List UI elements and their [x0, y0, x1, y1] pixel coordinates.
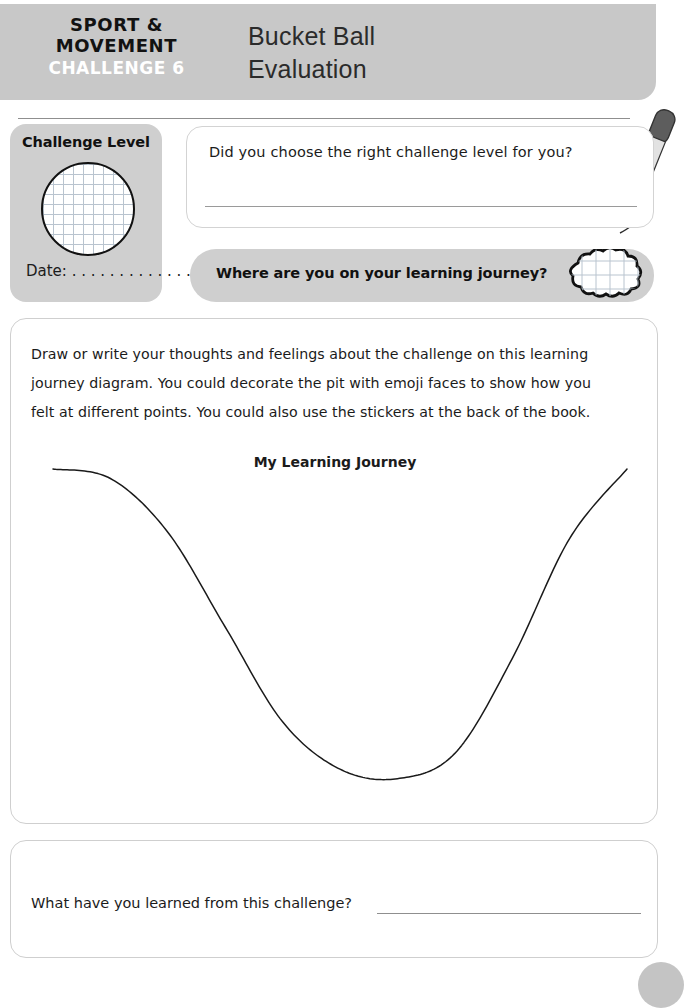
page-title: Bucket Ball Evaluation — [248, 20, 375, 86]
question-2-answer-input-line-1[interactable] — [377, 913, 641, 914]
date-field[interactable]: Date: . . . . . . . . . . . . . — [26, 262, 191, 280]
brand-line-1: SPORT & — [34, 14, 199, 35]
instruction-line: Draw or write your thoughts and feelings… — [31, 346, 588, 362]
page-title-line-1: Bucket Ball — [248, 20, 375, 53]
challenge-level-card: Challenge Level Date: . . . . . . . . . … — [10, 124, 162, 302]
grid-circle-icon[interactable] — [41, 162, 135, 256]
page-title-line-2: Evaluation — [248, 53, 375, 86]
question-2-answer-input-line-2[interactable] — [18, 118, 630, 119]
bottom-box: What have you learned from this challeng… — [10, 840, 658, 958]
challenge-number: CHALLENGE 6 — [34, 57, 199, 79]
question-1-label: Did you choose the right challenge level… — [209, 144, 573, 160]
question-box-1: Did you choose the right challenge level… — [186, 126, 654, 228]
instruction-line: felt at different points. You could also… — [31, 404, 590, 420]
corner-decoration — [638, 962, 684, 1008]
instruction-line: journey diagram. You could decorate the … — [31, 375, 591, 391]
question-2-label: What have you learned from this challeng… — [31, 895, 352, 911]
brand-block: SPORT & MOVEMENT CHALLENGE 6 — [34, 14, 199, 79]
question-1-answer-input[interactable] — [205, 206, 637, 207]
learning-journey-curve[interactable] — [11, 459, 659, 809]
main-panel: Draw or write your thoughts and feelings… — [10, 318, 658, 824]
challenge-level-title: Challenge Level — [10, 134, 162, 150]
brand-line-2: MOVEMENT — [34, 35, 199, 56]
cloud-sticker-icon[interactable] — [556, 249, 648, 303]
journey-bar: Where are you on your learning journey? — [190, 249, 654, 302]
journey-bar-label: Where are you on your learning journey? — [216, 265, 547, 281]
